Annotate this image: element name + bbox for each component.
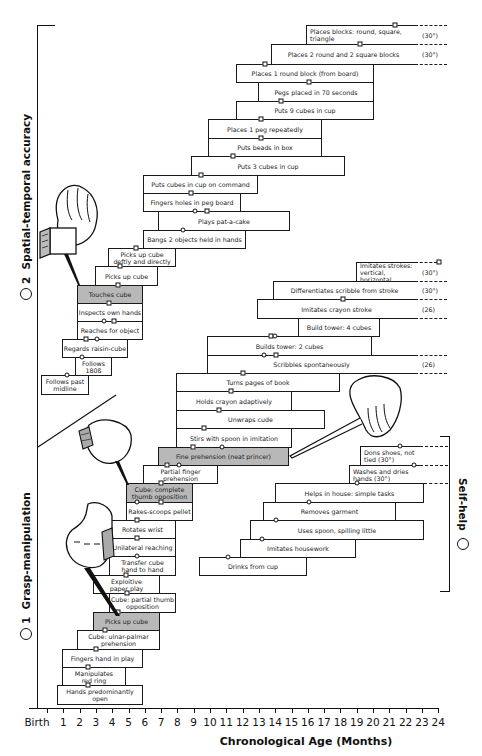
x-axis-label: Chronological Age (Months) xyxy=(0,735,482,748)
age-note: (30°) xyxy=(422,287,438,294)
square-marker-icon xyxy=(103,628,108,633)
x-axis-tick xyxy=(210,708,211,713)
square-marker-icon xyxy=(118,264,123,269)
milestone-bar: Drinks from cup xyxy=(199,557,307,576)
square-marker-icon xyxy=(274,353,279,358)
milestone-label: Puts 9 cubes in cup xyxy=(274,107,335,114)
milestone-bar: Fingers hand in play xyxy=(62,649,143,668)
milestone-label: Build tower: 4 cubes xyxy=(307,324,371,331)
x-axis-tick-label: 24 xyxy=(432,716,445,728)
milestone-label: Puts beads in box xyxy=(237,144,293,151)
milestone-bar: Inspects own hands xyxy=(77,303,143,322)
circle-marker-icon xyxy=(262,353,267,358)
square-marker-icon xyxy=(231,154,236,159)
circle-marker-icon xyxy=(260,537,265,542)
x-axis-tick xyxy=(389,708,390,713)
milestone-bar: Puts 9 cubes in cup xyxy=(236,101,374,120)
dashed-extension-line xyxy=(415,25,447,26)
selfhelp-bracket-top xyxy=(440,436,450,437)
x-axis-tick-label: 11 xyxy=(220,716,233,728)
square-marker-icon xyxy=(94,647,99,652)
x-axis-tick xyxy=(80,708,81,713)
diagonal-divider-line xyxy=(38,395,118,450)
milestone-bar: Follows 180ß xyxy=(75,357,112,376)
milestone-label: Puts cubes in cup on command xyxy=(151,181,250,188)
milestone-label: Helps in house: simple tasks xyxy=(305,490,395,497)
dashed-extension-line xyxy=(415,299,447,300)
milestone-label: Regards raisin-cube xyxy=(64,345,126,352)
circle-marker-icon xyxy=(177,463,182,468)
milestone-bar: Helps in house: simple tasks xyxy=(275,483,424,503)
x-axis-tick-label: 12 xyxy=(236,716,249,728)
square-marker-icon xyxy=(107,301,112,306)
milestone-bar: Regards raisin-cube xyxy=(62,339,128,358)
x-axis-line xyxy=(29,708,439,709)
milestone-bar: Follows past midline xyxy=(41,375,89,395)
square-marker-icon xyxy=(279,99,284,104)
milestone-bar: Partial finger prehension xyxy=(143,465,218,484)
age-note: (26) xyxy=(422,361,435,368)
x-axis-tick-label: 7 xyxy=(158,716,165,728)
x-axis-tick-label: 1 xyxy=(60,716,67,728)
x-axis-tick xyxy=(357,708,358,713)
dashed-extension-line xyxy=(420,465,448,466)
milestone-label: Picks up cube xyxy=(105,273,148,280)
x-axis-tick xyxy=(226,708,227,713)
circle-marker-icon xyxy=(273,334,278,339)
square-marker-icon xyxy=(263,62,268,67)
age-note: (30°) xyxy=(422,51,438,58)
x-axis-tick-label: 18 xyxy=(334,716,347,728)
milestone-bar: Imitates housework xyxy=(240,539,356,558)
circle-marker-icon xyxy=(65,373,70,378)
square-marker-icon xyxy=(205,209,210,214)
milestone-bar: Turns pages of book xyxy=(176,373,340,392)
milestone-label: Manipulates red ring xyxy=(75,670,113,684)
milestone-bar: Imitates crayon stroke(26) xyxy=(257,299,415,319)
grasp-manipulation-label: 1 Grasp-manipulation xyxy=(20,492,33,640)
dashed-extension-line xyxy=(415,318,447,319)
age-note: (30°) xyxy=(422,269,438,276)
milestone-bar: Removes garment xyxy=(263,502,396,521)
x-axis-tick xyxy=(406,708,407,713)
milestone-label: Plays pat-a-cake xyxy=(198,218,250,225)
x-axis-tick-label: 17 xyxy=(317,716,330,728)
dashed-extension-line xyxy=(415,262,437,263)
x-axis-tick xyxy=(373,708,374,713)
milestone-label: Differentiates scribble from stroke xyxy=(291,287,399,294)
x-axis-tick xyxy=(112,708,113,713)
x-axis-tick-label: 4 xyxy=(109,716,116,728)
circle-marker-icon xyxy=(80,355,85,360)
milestone-bar: Build tower: 4 cubes xyxy=(298,318,380,337)
circle-marker-icon xyxy=(307,500,312,505)
milestone-label: Hands predominantly open xyxy=(58,688,142,702)
milestone-label: Bangs 2 objects held in hands xyxy=(147,236,242,243)
x-axis-tick-label: Birth xyxy=(24,716,49,728)
milestone-bar: Pegs placed in 70 seconds xyxy=(258,82,374,102)
x-axis-tick-label: 2 xyxy=(76,716,83,728)
milestone-label: Places blocks: round, square, triangle xyxy=(310,28,415,42)
milestone-label: Places 2 round and 2 square blocks xyxy=(288,51,400,58)
square-marker-icon xyxy=(84,337,89,342)
milestone-label: Fine prehension (neat princer) xyxy=(176,453,271,460)
x-axis-tick xyxy=(308,708,309,713)
milestone-bar: Places 1 peg repeatedly xyxy=(208,119,322,139)
group-3-ring-icon xyxy=(457,538,469,550)
square-marker-icon xyxy=(241,371,246,376)
circle-marker-icon xyxy=(412,463,417,468)
square-marker-icon xyxy=(159,481,164,486)
square-marker-icon xyxy=(86,665,91,670)
spatial-bracket-top xyxy=(37,25,55,26)
milestone-bar: Puts cubes in cup on command xyxy=(143,175,258,194)
milestone-bar: Hands predominantly open xyxy=(57,685,143,705)
milestone-label: Places 1 peg repeatedly xyxy=(227,126,303,133)
circle-marker-icon xyxy=(95,337,100,342)
hand-pincer-grasp-illustration xyxy=(338,372,408,452)
x-axis-tick-label: 3 xyxy=(93,716,100,728)
x-axis-tick-label: 14 xyxy=(269,716,282,728)
milestone-bar: Unwraps cude xyxy=(176,410,325,429)
square-marker-icon xyxy=(259,136,264,141)
dashed-extension-line xyxy=(415,64,447,65)
x-axis-tick-label: 10 xyxy=(203,716,216,728)
age-note: (26) xyxy=(422,306,435,313)
x-axis-tick-label: 20 xyxy=(366,716,379,728)
